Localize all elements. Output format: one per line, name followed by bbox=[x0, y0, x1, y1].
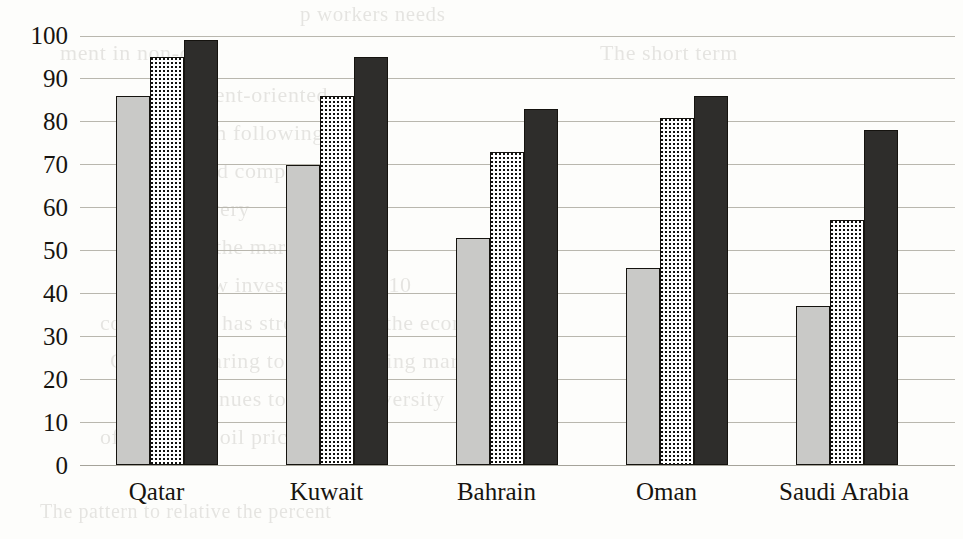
bar-group-oman bbox=[626, 36, 728, 465]
y-tick-label: 100 bbox=[6, 23, 68, 48]
bar-kuwait-series-1 bbox=[286, 165, 320, 465]
bar-oman-series-3 bbox=[694, 96, 728, 465]
bar-oman-series-2 bbox=[660, 118, 694, 465]
bar-bahrain-series-1 bbox=[456, 238, 490, 465]
bar-kuwait-series-3 bbox=[354, 57, 388, 465]
y-tick-label: 20 bbox=[6, 367, 68, 392]
x-tick-label-oman: Oman bbox=[574, 478, 759, 506]
x-tick-label-kuwait: Kuwait bbox=[234, 478, 419, 506]
x-tick-label-bahrain: Bahrain bbox=[404, 478, 589, 506]
bar-group-kuwait bbox=[286, 36, 388, 465]
y-tick-label: 60 bbox=[6, 195, 68, 220]
y-tick-label: 70 bbox=[6, 152, 68, 177]
bar-qatar-series-2 bbox=[150, 57, 184, 465]
bar-qatar-series-1 bbox=[116, 96, 150, 465]
y-tick-label: 50 bbox=[6, 238, 68, 263]
y-tick-label: 90 bbox=[6, 66, 68, 91]
bar-saudi-arabia-series-1 bbox=[796, 306, 830, 465]
x-tick-label-saudi-arabia: Saudi Arabia bbox=[744, 478, 944, 506]
y-tick-label: 10 bbox=[6, 410, 68, 435]
axis-baseline bbox=[80, 465, 955, 466]
bar-group-qatar bbox=[116, 36, 218, 465]
x-tick-label-qatar: Qatar bbox=[64, 478, 249, 506]
bar-saudi-arabia-series-2 bbox=[830, 220, 864, 465]
bar-bahrain-series-2 bbox=[490, 152, 524, 465]
bar-saudi-arabia-series-3 bbox=[864, 130, 898, 465]
bar-group-bahrain bbox=[456, 36, 558, 465]
y-axis: 100 90 80 70 60 50 40 30 20 10 0 bbox=[0, 0, 68, 539]
y-tick-label: 80 bbox=[6, 109, 68, 134]
bar-chart: 100 90 80 70 60 50 40 30 20 10 0 bbox=[0, 0, 963, 539]
bar-qatar-series-3 bbox=[184, 40, 218, 465]
bar-oman-series-1 bbox=[626, 268, 660, 465]
y-tick-label: 40 bbox=[6, 281, 68, 306]
bar-bahrain-series-3 bbox=[524, 109, 558, 465]
y-tick-label: 30 bbox=[6, 324, 68, 349]
bar-kuwait-series-2 bbox=[320, 96, 354, 465]
bar-group-saudi-arabia bbox=[796, 36, 898, 465]
y-tick-label: 0 bbox=[6, 453, 68, 478]
plot-area bbox=[80, 36, 955, 465]
